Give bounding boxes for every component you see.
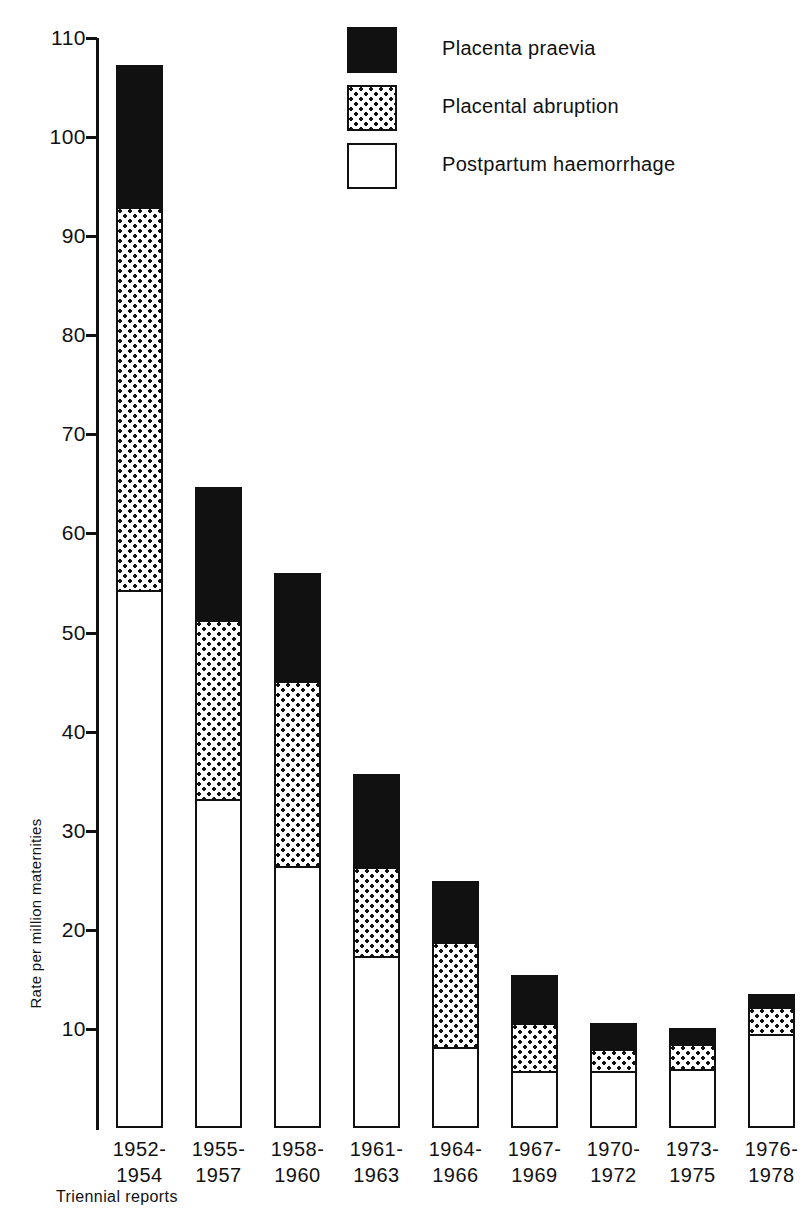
y-axis-tick	[86, 136, 97, 139]
dotted-square-icon	[347, 85, 397, 131]
bar-segment-abruption[interactable]	[513, 1023, 556, 1073]
category-label-line: 1978	[732, 1162, 810, 1188]
bar-segment-abruption[interactable]	[750, 1007, 793, 1036]
x-axis-category-label: 1967-1969	[495, 1136, 574, 1188]
y-axis-tick	[86, 235, 97, 238]
bar-segment-praevia[interactable]	[276, 575, 319, 681]
category-label-line: 1957	[179, 1162, 258, 1188]
bar-segment-abruption[interactable]	[592, 1049, 635, 1073]
x-axis-category-label: 1973-1975	[653, 1136, 732, 1188]
category-label-line: 1970-	[574, 1136, 653, 1162]
bar-segment-pph[interactable]	[434, 1049, 477, 1126]
bar-segment-abruption[interactable]	[355, 867, 398, 958]
y-axis-tick	[86, 37, 97, 40]
bar-segment-pph[interactable]	[592, 1073, 635, 1126]
bar-stack[interactable]	[274, 573, 321, 1128]
category-label-line: 1969	[495, 1162, 574, 1188]
category-label-line: 1961-	[337, 1136, 416, 1162]
category-label-line: 1966	[416, 1162, 495, 1188]
bar-stack[interactable]	[748, 994, 795, 1128]
x-axis-title: Triennial reports	[56, 1188, 178, 1206]
bar-segment-abruption[interactable]	[671, 1044, 714, 1071]
bar-segment-abruption[interactable]	[197, 620, 240, 801]
bar-stack[interactable]	[590, 1023, 637, 1128]
category-label-line: 1952-	[100, 1136, 179, 1162]
plot-area: 1952-19541955-19571958-19601961-19631964…	[0, 0, 810, 1231]
bar-stack[interactable]	[116, 65, 163, 1128]
category-label-line: 1973-	[653, 1136, 732, 1162]
x-axis-category-label: 1961-1963	[337, 1136, 416, 1188]
x-axis-category-label: 1952-1954	[100, 1136, 179, 1188]
bar-stack[interactable]	[511, 975, 558, 1128]
category-label-line: 1967-	[495, 1136, 574, 1162]
x-axis-category-label: 1964-1966	[416, 1136, 495, 1188]
bar-segment-praevia[interactable]	[592, 1025, 635, 1049]
category-label-line: 1964-	[416, 1136, 495, 1162]
bar-segment-abruption[interactable]	[118, 207, 161, 592]
bar-segment-praevia[interactable]	[197, 489, 240, 620]
x-axis-category-label: 1955-1957	[179, 1136, 258, 1188]
bar-segment-abruption[interactable]	[434, 942, 477, 1049]
bar-segment-praevia[interactable]	[513, 977, 556, 1022]
bar-segment-pph[interactable]	[276, 868, 319, 1126]
bar-segment-pph[interactable]	[197, 801, 240, 1126]
bar-stack[interactable]	[195, 487, 242, 1128]
y-axis-tick	[86, 334, 97, 337]
bar-segment-pph[interactable]	[750, 1036, 793, 1126]
bar-segment-praevia[interactable]	[671, 1030, 714, 1044]
bar-segment-pph[interactable]	[513, 1073, 556, 1126]
y-axis-tick	[86, 433, 97, 436]
bar-segment-pph[interactable]	[671, 1071, 714, 1126]
x-axis-category-label: 1958-1960	[258, 1136, 337, 1188]
legend-item-label: Postpartum haemorrhage	[442, 153, 675, 176]
y-axis-tick	[86, 532, 97, 535]
y-axis-tick	[86, 632, 97, 635]
legend-item-label: Placenta praevia	[442, 37, 596, 60]
bar-stack[interactable]	[432, 881, 479, 1128]
legend-item-label: Placental abruption	[442, 95, 619, 118]
bar-segment-praevia[interactable]	[118, 67, 161, 207]
category-label-line: 1963	[337, 1162, 416, 1188]
y-axis-tick	[86, 1028, 97, 1031]
bar-stack[interactable]	[669, 1028, 716, 1128]
category-label-line: 1958-	[258, 1136, 337, 1162]
y-axis-tick	[86, 929, 97, 932]
bar-segment-abruption[interactable]	[276, 681, 319, 868]
category-label-line: 1955-	[179, 1136, 258, 1162]
bar-segment-praevia[interactable]	[434, 883, 477, 941]
bar-segment-pph[interactable]	[355, 958, 398, 1126]
chart-figure: 110100908070605040302010 Rate per millio…	[0, 0, 810, 1231]
x-axis-category-label: 1970-1972	[574, 1136, 653, 1188]
category-label-line: 1976-	[732, 1136, 810, 1162]
x-axis-category-label: 1976-1978	[732, 1136, 810, 1188]
category-label-line: 1975	[653, 1162, 732, 1188]
y-axis-tick	[86, 731, 97, 734]
white-square-icon	[347, 143, 397, 189]
bar-stack[interactable]	[353, 774, 400, 1128]
category-label-line: 1960	[258, 1162, 337, 1188]
bar-segment-praevia[interactable]	[355, 776, 398, 867]
bar-segment-praevia[interactable]	[750, 996, 793, 1007]
y-axis-tick	[86, 830, 97, 833]
category-label-line: 1972	[574, 1162, 653, 1188]
bar-segment-pph[interactable]	[118, 592, 161, 1126]
category-label-line: 1954	[100, 1162, 179, 1188]
black-square-icon	[347, 27, 397, 73]
